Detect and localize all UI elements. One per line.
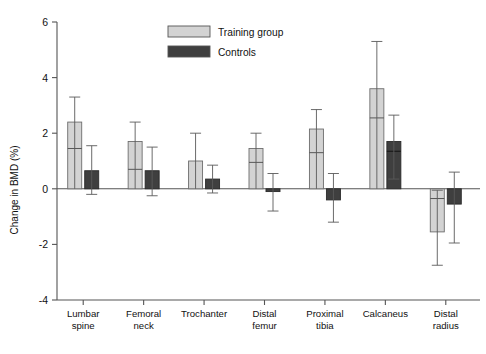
x-tick-label: Distal bbox=[434, 308, 458, 319]
bar-group bbox=[128, 122, 142, 189]
x-tick-label: femur bbox=[252, 320, 277, 331]
error-bar bbox=[449, 172, 460, 243]
bar-group bbox=[145, 147, 159, 196]
x-tick-label: Proximal bbox=[306, 308, 343, 319]
bar-group bbox=[85, 146, 99, 195]
bar-group bbox=[430, 189, 444, 265]
y-tick-label: 6 bbox=[42, 16, 48, 28]
bar-group bbox=[68, 97, 82, 189]
y-tick-label: -4 bbox=[39, 294, 48, 306]
bar-group bbox=[447, 172, 461, 243]
bar-group bbox=[266, 174, 280, 212]
x-tick-label: Lumbar bbox=[67, 308, 100, 319]
chart-svg: Change in BMD (%) -4-20246 LumbarspineFe… bbox=[0, 0, 486, 354]
y-axis-ticks: -4-20246 bbox=[39, 16, 57, 306]
y-tick-label: -2 bbox=[39, 238, 48, 250]
legend-swatch bbox=[168, 46, 210, 57]
plot-area bbox=[57, 41, 480, 265]
x-tick-label: spine bbox=[72, 320, 95, 331]
error-bar bbox=[268, 174, 279, 212]
x-tick-label: tibia bbox=[316, 320, 334, 331]
bar-group bbox=[206, 165, 220, 193]
legend-label: Training group bbox=[218, 27, 284, 38]
y-tick-label: 4 bbox=[42, 72, 48, 84]
x-tick-label: neck bbox=[134, 320, 154, 331]
x-tick-label: Femoral bbox=[126, 308, 161, 319]
y-tick-label: 0 bbox=[42, 183, 48, 195]
legend-label: Controls bbox=[218, 47, 256, 58]
bar-group bbox=[309, 110, 323, 189]
x-tick-label: radius bbox=[433, 320, 459, 331]
bar-group bbox=[189, 133, 203, 189]
bar-group bbox=[326, 174, 340, 223]
x-tick-label: Trochanter bbox=[181, 308, 228, 319]
x-axis-ticks: LumbarspineFemoralneckTrochanterDistalfe… bbox=[57, 300, 480, 331]
x-tick-label: Distal bbox=[253, 308, 277, 319]
y-tick-label: 2 bbox=[42, 127, 48, 139]
bar-group bbox=[370, 41, 384, 188]
x-tick-label: Calcaneus bbox=[363, 308, 409, 319]
chart-legend: Training groupControls bbox=[168, 26, 284, 58]
y-axis-label: Change in BMD (%) bbox=[9, 146, 20, 235]
legend-swatch bbox=[168, 26, 210, 37]
bar-group bbox=[249, 133, 263, 189]
bmd-change-bar-chart: Change in BMD (%) -4-20246 LumbarspineFe… bbox=[0, 0, 486, 354]
bar-group bbox=[387, 115, 401, 189]
